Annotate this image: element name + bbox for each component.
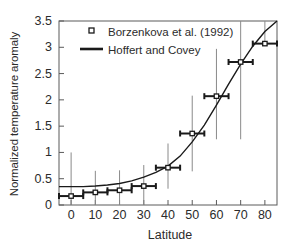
x-tick-label: 50 (179, 209, 205, 222)
chart-figure: Normalized temperature aromaly Latitude … (0, 0, 294, 251)
y-axis-label: Normalized temperature aromaly (8, 14, 20, 214)
y-tick-label: 0.5 (24, 173, 52, 186)
x-tick-label: 40 (155, 209, 181, 222)
x-tick-label: 20 (107, 209, 133, 222)
y-tick-label: 1 (24, 146, 52, 159)
x-tick-label: 80 (252, 209, 278, 222)
legend (80, 28, 103, 49)
x-tick-label: 30 (131, 209, 157, 222)
x-axis-tick-labels: 01020304050607080 (0, 209, 294, 229)
y-tick-label: 2.5 (24, 68, 52, 81)
y-tick-label: 3.5 (24, 15, 52, 28)
y-tick-label: 1.5 (24, 120, 52, 133)
x-tick-label: 70 (228, 209, 254, 222)
y-tick-label: 3 (24, 41, 52, 54)
x-tick-label: 0 (58, 209, 84, 222)
legend-label-borzenkova: Borzenkova et al. (1992) (108, 26, 233, 38)
y-tick-label: 2 (24, 94, 52, 107)
legend-label-hoffert: Hoffert and Covey (108, 44, 200, 56)
x-tick-label: 60 (203, 209, 229, 222)
x-tick-label: 10 (82, 209, 108, 222)
x-axis-label: Latitude (60, 228, 280, 242)
